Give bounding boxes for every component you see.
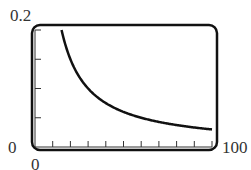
y-max-label: 0.2 [10, 6, 31, 25]
chart: 0.2 0 0 100 [0, 0, 251, 170]
data-curve [62, 30, 212, 129]
x-min-label: 0 [31, 155, 40, 170]
x-max-label: 100 [222, 138, 248, 157]
axis-ticks [35, 30, 212, 147]
plot-frame [32, 25, 217, 150]
y-min-label: 0 [8, 138, 17, 157]
